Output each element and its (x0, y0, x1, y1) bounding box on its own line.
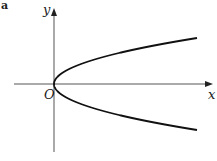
parabola-curve-lower (54, 84, 197, 130)
x-axis-label: x (208, 88, 215, 101)
origin-label: O (44, 88, 55, 101)
parabola-curve-upper (54, 38, 197, 84)
y-axis-arrow-icon (51, 8, 57, 16)
y-axis-label: y (43, 3, 50, 16)
panel-label: a (1, 0, 8, 11)
parabola-diagram (0, 0, 217, 161)
